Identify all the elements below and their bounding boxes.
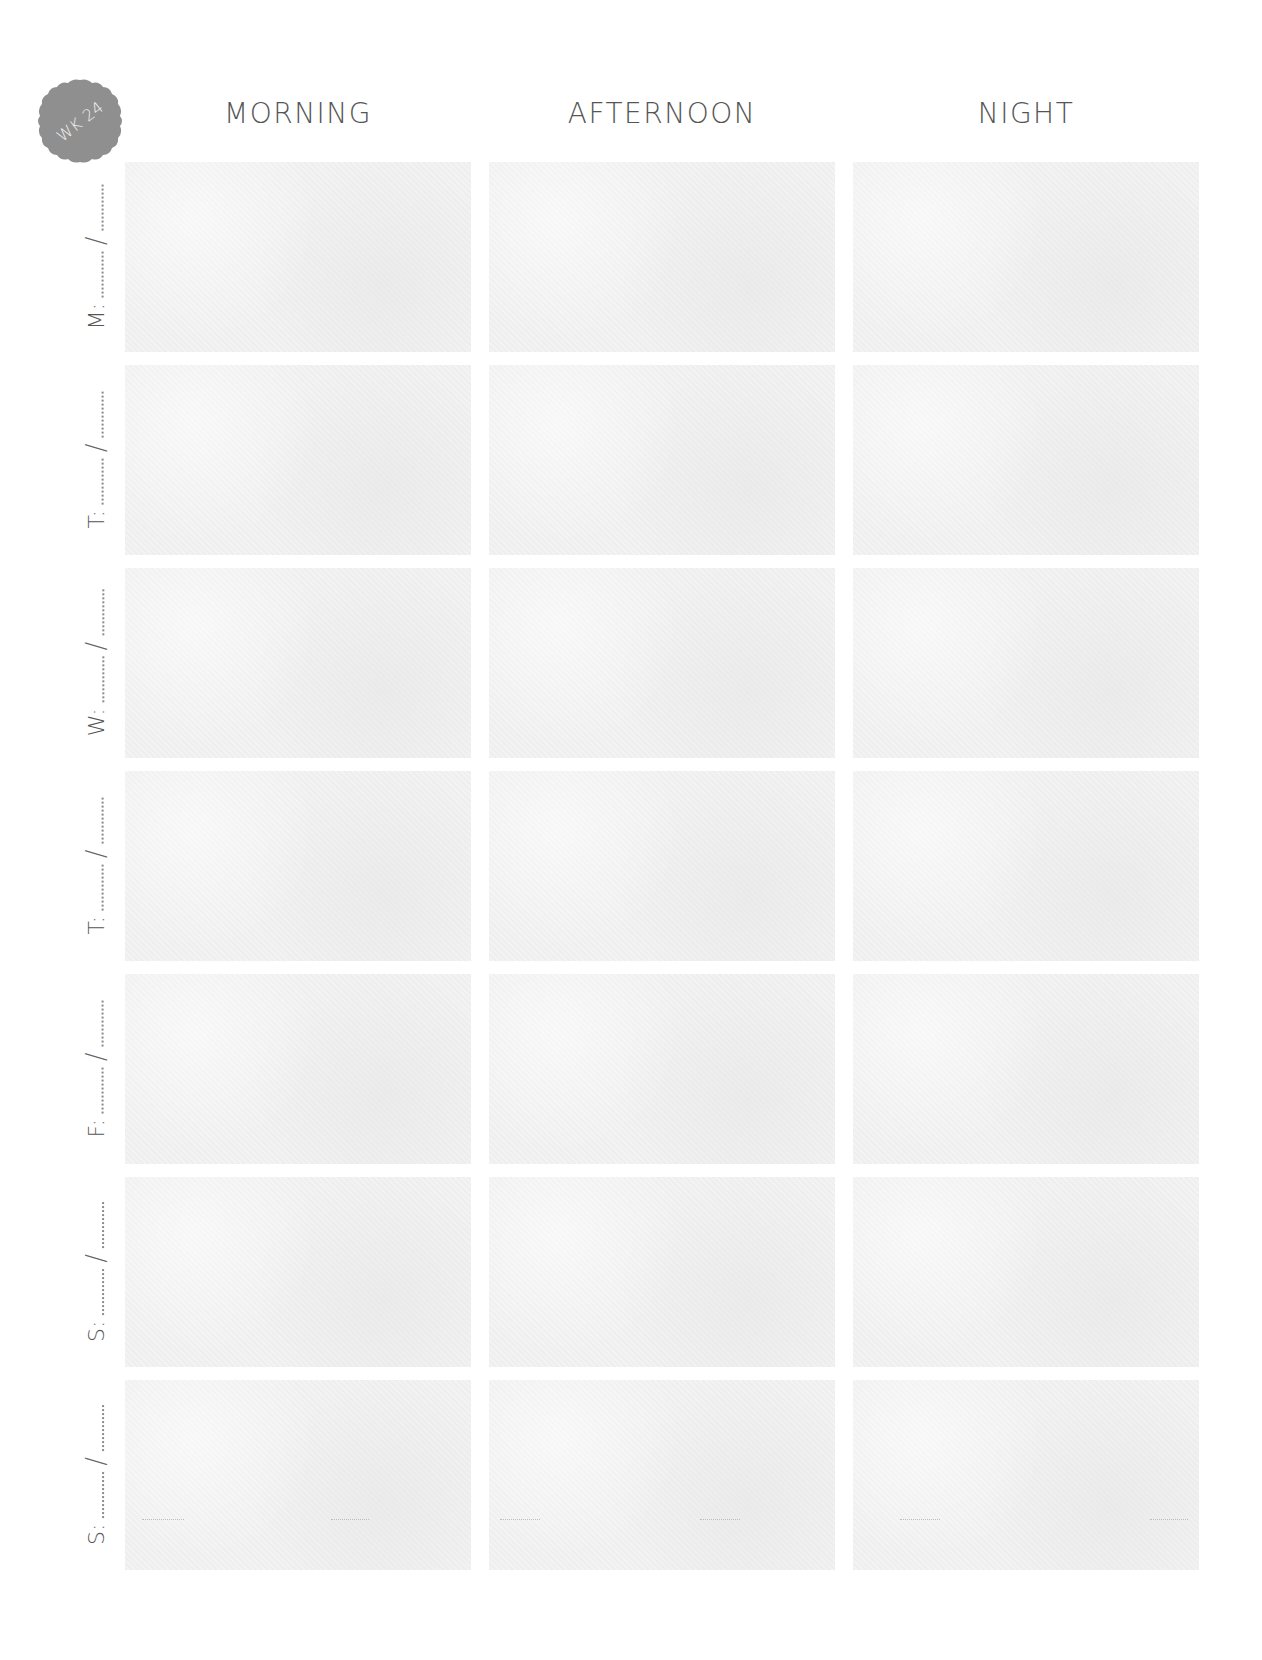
cell-saturday-morning[interactable] [125,1177,471,1367]
day-letter: T: [84,510,109,528]
date-separator: / [81,236,111,245]
cell-tuesday-afternoon[interactable] [489,365,835,555]
header-morning-text: Morning [224,86,372,132]
date-blank-day[interactable] [102,1472,104,1518]
day-letter: M: [84,303,109,329]
date-blank-day[interactable] [102,251,104,297]
date-blank-day[interactable] [102,458,104,504]
row-label-sunday: S: / [72,1380,120,1570]
date-separator: / [81,849,111,858]
cell-thursday-night[interactable] [853,771,1199,961]
cell-thursday-morning[interactable] [125,771,471,961]
cell-saturday-night[interactable] [853,1177,1199,1367]
cell-thursday-afternoon[interactable] [489,771,835,961]
date-blank-day[interactable] [102,1067,104,1113]
row-label-wednesday: W: / [72,568,120,758]
cell-wednesday-afternoon[interactable] [489,568,835,758]
header-afternoon-text: Afternoon [568,86,757,132]
date-separator: / [81,443,111,452]
day-letter: S: [84,1524,109,1545]
date-blank-month[interactable] [102,1000,104,1046]
row-label-monday: M: / [72,162,120,352]
cell-tuesday-morning[interactable] [125,365,471,555]
cell-sunday-morning[interactable] [125,1380,471,1570]
header-night-text: Night [978,86,1075,132]
row-label-saturday: S: / [72,1177,120,1367]
cell-monday-night[interactable] [853,162,1199,352]
date-separator: / [81,642,111,651]
dotted-line-stub [142,1519,184,1520]
cell-wednesday-night[interactable] [853,568,1199,758]
row-label-friday: F: / [72,974,120,1164]
date-blank-month[interactable] [102,797,104,843]
date-blank-month[interactable] [102,1405,104,1451]
header-morning: Morning [125,84,471,134]
day-letter: W: [84,708,109,736]
date-blank-month[interactable] [102,1202,104,1248]
day-letter: S: [84,1321,109,1342]
date-blank-day[interactable] [102,656,104,702]
cell-tuesday-night[interactable] [853,365,1199,555]
date-separator: / [81,1254,111,1263]
dotted-line-stub [900,1519,940,1520]
row-label-thursday: T: / [72,771,120,961]
planner-grid [125,162,1211,1572]
cell-monday-morning[interactable] [125,162,471,352]
dotted-line-stub [331,1519,369,1520]
cell-monday-afternoon[interactable] [489,162,835,352]
date-blank-month[interactable] [102,184,104,230]
dotted-line-stub [700,1519,740,1520]
row-label-tuesday: T: / [72,365,120,555]
cell-sunday-night[interactable] [853,1380,1199,1570]
cell-sunday-afternoon[interactable] [489,1380,835,1570]
date-separator: / [81,1052,111,1061]
day-letter: T: [84,916,109,934]
cell-friday-night[interactable] [853,974,1199,1164]
dotted-line-stub [1150,1519,1188,1520]
day-letter: F: [84,1119,109,1137]
date-blank-month[interactable] [102,391,104,437]
week-badge: WK 24 [37,78,123,164]
cell-wednesday-morning[interactable] [125,568,471,758]
cell-friday-morning[interactable] [125,974,471,1164]
date-separator: / [81,1457,111,1466]
date-blank-day[interactable] [102,864,104,910]
dotted-line-stub [500,1519,540,1520]
header-afternoon: Afternoon [489,84,835,134]
header-night: Night [853,84,1199,134]
date-blank-day[interactable] [102,1269,104,1315]
cell-saturday-afternoon[interactable] [489,1177,835,1367]
cell-friday-afternoon[interactable] [489,974,835,1164]
date-blank-month[interactable] [102,590,104,636]
